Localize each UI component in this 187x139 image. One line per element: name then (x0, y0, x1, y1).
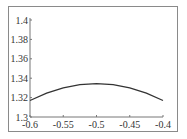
x-tick-label: -0.5 (89, 119, 105, 130)
y-tick-label: 1.36 (11, 53, 29, 64)
y-tick-label: 1.4 (16, 15, 29, 26)
y-tick-label: 1.38 (11, 34, 29, 45)
y-tick-label: 1.34 (11, 73, 29, 84)
axes (30, 18, 163, 117)
x-tick-label: -0.6 (22, 119, 38, 130)
tick-labels: 1.31.321.341.361.381.4-0.6-0.55-0.5-0.45… (11, 15, 171, 131)
x-tick-label: -0.45 (119, 119, 140, 130)
line-chart: 1.31.321.341.361.381.4-0.6-0.55-0.5-0.45… (0, 0, 187, 139)
y-tick-label: 1.32 (11, 92, 29, 103)
data-curve (30, 84, 163, 101)
x-tick-label: -0.4 (155, 119, 171, 130)
x-tick-label: -0.55 (53, 119, 74, 130)
